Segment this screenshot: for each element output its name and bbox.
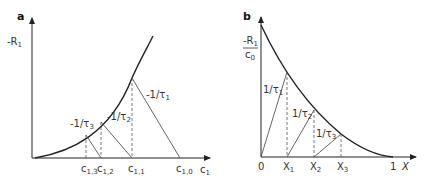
tick-c12: c1,2 (97, 163, 114, 176)
svg-text:-R1: -R1 (243, 35, 258, 48)
panel-a: a -R1 c1 -1/τ1 -1/τ2 -1/τ3 c1,3 c1,2 c1,… (7, 10, 210, 177)
rate-curve (35, 36, 153, 158)
tick-x1: X1 (283, 161, 294, 174)
slope-label-3: -1/τ3 (70, 118, 94, 131)
tick-x2: X2 (310, 161, 321, 174)
slope-label-2: -1/τ2 (107, 111, 131, 124)
tick-c11: c1,1 (128, 163, 145, 176)
tick-one: 1 (390, 161, 396, 172)
tick-c13: c1,3 (81, 163, 98, 176)
svg-text:c0: c0 (245, 49, 255, 62)
slope-label-1: -1/τ1 (146, 89, 170, 102)
tick-c10: c1,0 (176, 163, 193, 176)
panel-b-label: b (243, 10, 251, 23)
y-axis-label: -R1 c0 (243, 35, 258, 62)
diagram-canvas: a -R1 c1 -1/τ1 -1/τ2 -1/τ3 c1,3 c1,2 c1,… (0, 0, 426, 181)
y-axis-label: -R1 (7, 36, 22, 49)
slope-label-2: 1/τ2 (292, 108, 312, 121)
panel-b: b -R1 c0 1/τ1 1/τ2 1/τ3 0 X1 X2 X3 1 X (243, 10, 416, 174)
x-axis-label: c1 (200, 164, 210, 177)
tick-x3: X3 (337, 161, 348, 174)
panel-a-label: a (17, 10, 24, 23)
line-tau2 (101, 122, 132, 158)
x-axis-label: X (401, 161, 410, 172)
slope-label-1: 1/τ1 (263, 84, 283, 97)
tick-origin: 0 (258, 161, 264, 172)
line-tau3 (86, 135, 101, 158)
slope-label-3: 1/τ3 (316, 128, 336, 141)
